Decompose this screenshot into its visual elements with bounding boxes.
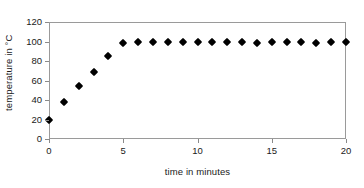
y-axis-tick-mark: [45, 120, 49, 121]
chart-container: temperature in °C 020406080100120 time i…: [0, 0, 364, 188]
y-axis-tick-label: 80: [16, 56, 42, 66]
x-axis-tick-mark: [346, 139, 347, 143]
x-axis-tick-mark: [49, 139, 50, 143]
x-axis-title: time in minutes: [49, 167, 346, 177]
y-axis-title-text: temperature in °C: [4, 35, 14, 111]
y-axis-tick-label: 20: [16, 115, 42, 125]
y-axis-tick-label: 100: [16, 37, 42, 47]
y-axis-tick-mark: [45, 61, 49, 62]
y-axis-tick-mark: [45, 42, 49, 43]
x-axis-tick-label: 0: [29, 146, 69, 156]
x-axis-tick-mark: [198, 139, 199, 143]
plot-area: [49, 22, 346, 139]
x-axis-tick-mark: [123, 139, 124, 143]
y-axis-tick-label: 120: [16, 17, 42, 27]
y-axis-tick-mark: [45, 100, 49, 101]
x-axis-tick-label: 20: [326, 146, 364, 156]
y-axis-tick-mark: [45, 81, 49, 82]
y-axis-tick-labels: 020406080100120: [16, 14, 42, 146]
y-axis-tick-mark: [45, 22, 49, 23]
x-axis-tick-label: 5: [103, 146, 143, 156]
x-axis-tick-label: 15: [252, 146, 292, 156]
y-axis-tick-label: 40: [16, 95, 42, 105]
y-axis-tick-label: 60: [16, 76, 42, 86]
x-axis-tick-mark: [272, 139, 273, 143]
x-axis-tick-label: 10: [178, 146, 218, 156]
y-axis-tick-label: 0: [16, 134, 42, 144]
